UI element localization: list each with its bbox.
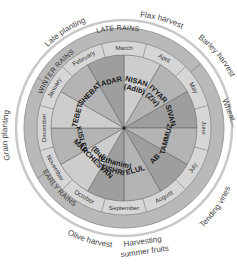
center-pin xyxy=(122,126,125,129)
calendar-diagram: LATE RAINS WINTER RAINS EARLY RAINS Flax… xyxy=(0,0,237,266)
calendar-wheel: LATE RAINS WINTER RAINS EARLY RAINS Flax… xyxy=(0,0,237,266)
activity-tending-vines: Tending vines xyxy=(198,185,232,229)
gregorian-month-label: September xyxy=(109,204,139,211)
gregorian-month-label: March xyxy=(115,44,133,51)
activity-grain-planting: Grain planting xyxy=(0,109,12,161)
gregorian-month-label: December xyxy=(40,114,47,143)
gregorian-month-label: June xyxy=(201,121,208,135)
